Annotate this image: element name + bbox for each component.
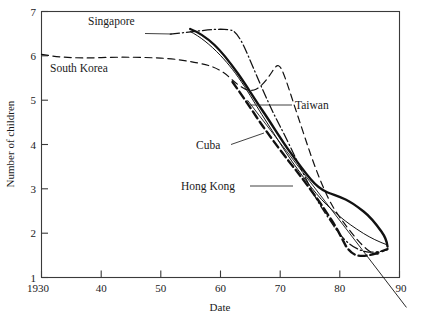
annotation-leader-lines [145, 34, 293, 187]
x-tick-label-40: 40 [96, 282, 108, 294]
y-tick-label-6: 6 [31, 50, 37, 62]
x-tick-label-50: 50 [155, 282, 167, 294]
x-tick-label-1930: 1930 [27, 282, 50, 294]
fertility-decline-chart: 7 6 5 4 3 2 1 1930 40 50 60 70 80 90 Dat… [0, 0, 426, 320]
chart-canvas: 7 6 5 4 3 2 1 1930 40 50 60 70 80 90 Dat… [0, 0, 426, 320]
y-tick-label-5: 5 [31, 94, 37, 106]
y-tick-labels: 7 6 5 4 3 2 1 [31, 6, 37, 284]
x-axis-title: Date [210, 301, 231, 313]
y-axis-ticks [42, 12, 49, 278]
series-label-singapore: Singapore [88, 15, 135, 28]
x-axis-ticks [42, 271, 400, 278]
y-axis-title: Number of children [4, 100, 16, 187]
series-label-hong-kong: Hong Kong [181, 180, 235, 193]
series-trend-line [248, 101, 407, 308]
leader-line-singapore [145, 34, 172, 35]
y-tick-label-3: 3 [31, 183, 37, 195]
y-tick-label-7: 7 [31, 6, 37, 18]
x-tick-label-60: 60 [215, 282, 227, 294]
y-tick-label-2: 2 [31, 227, 37, 239]
series-label-taiwan: Taiwan [295, 99, 329, 111]
x-tick-label-70: 70 [275, 282, 287, 294]
x-tick-label-80: 80 [334, 282, 346, 294]
series-taiwan [190, 29, 387, 247]
series-label-cuba: Cuba [196, 139, 220, 151]
y-tick-label-4: 4 [31, 139, 37, 151]
leader-line-cuba [231, 133, 264, 145]
series-label-south-korea: South Korea [50, 62, 108, 74]
x-tick-label-90: 90 [396, 282, 408, 294]
x-tick-labels: 1930 40 50 60 70 80 90 [27, 282, 407, 294]
series-south-korea [42, 54, 379, 254]
